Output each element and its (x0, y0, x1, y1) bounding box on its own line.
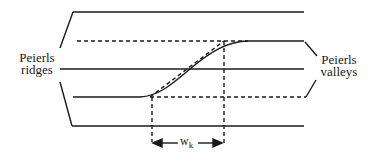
kink-width-symbol: w (180, 134, 189, 148)
valleys-leader-lower (306, 80, 316, 97)
arrowhead-left-icon (153, 139, 162, 147)
kink-width-subscript: k (189, 140, 194, 150)
ridges-leader-lower (60, 82, 72, 126)
label-valleys-line2: valleys (315, 66, 363, 78)
kink-diagram: Peierls ridges Peierls valleys wk (0, 0, 370, 160)
arrowhead-right-icon (213, 139, 222, 147)
label-ridges-line2: ridges (14, 64, 60, 76)
label-peierls-valleys: Peierls valleys (315, 54, 363, 78)
label-kink-width: wk (180, 134, 193, 150)
label-peierls-ridges: Peierls ridges (14, 52, 60, 76)
ridges-leader-upper (60, 12, 73, 48)
